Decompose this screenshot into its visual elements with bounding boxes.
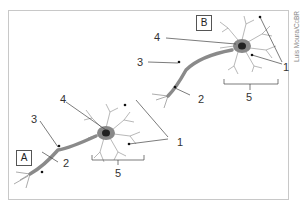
label-a-3: 3 bbox=[31, 114, 37, 125]
label-b-4: 4 bbox=[154, 32, 160, 43]
neuron-a-axon-terminals bbox=[14, 172, 30, 188]
leader-dots bbox=[41, 16, 262, 174]
label-b-3: 3 bbox=[137, 57, 143, 68]
label-b-5: 5 bbox=[246, 92, 252, 103]
neuron-b-tag: B bbox=[196, 15, 212, 31]
label-a-5: 5 bbox=[115, 168, 121, 179]
label-a-2: 2 bbox=[63, 158, 69, 169]
neuron-b-axon-terminals bbox=[152, 94, 168, 108]
image-credit: Luis Moura/CcBR bbox=[293, 11, 300, 62]
label-b-2: 2 bbox=[198, 94, 204, 105]
neuron-a-nucleus bbox=[102, 130, 110, 137]
neuron-a-tag: A bbox=[16, 150, 32, 166]
label-b-1: 1 bbox=[283, 62, 289, 73]
neuron-b-nucleus bbox=[238, 43, 246, 50]
label-a-4: 4 bbox=[60, 94, 66, 105]
label-a-1: 1 bbox=[177, 137, 183, 148]
